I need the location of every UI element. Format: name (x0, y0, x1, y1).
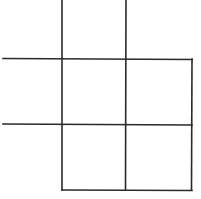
grid-diagram (0, 0, 201, 199)
vertical-line-middle (126, 0, 127, 190)
horizontal-line-top (3, 59, 192, 60)
horizontal-line-middle (3, 124, 192, 125)
horizontal-line-bottom (62, 190, 192, 191)
